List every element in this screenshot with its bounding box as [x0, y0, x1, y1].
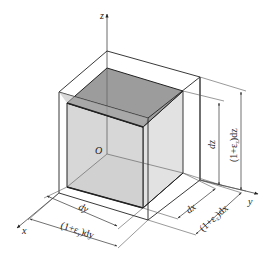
- svg-text:(1+εx)dx: (1+εx)dx: [197, 202, 231, 234]
- dimension-dx-deformed: (1+εx)dx: [196, 193, 241, 234]
- y-axis-label: y: [247, 196, 253, 207]
- dimension-dz-deformed: (1+εz)dz: [228, 92, 241, 190]
- z-axis-label: z: [99, 10, 104, 21]
- dy-label: dy: [77, 201, 91, 215]
- dx-label: dx: [183, 201, 198, 216]
- dz-label: dz: [206, 140, 217, 149]
- dimension-dy-deformed: (1+εy)dy: [30, 219, 117, 246]
- dz-deformed-prefix: (1+ε: [228, 144, 240, 162]
- svg-text:(1+εz)dz: (1+εz)dz: [228, 128, 240, 162]
- strain-element-diagram: z O x: [0, 0, 270, 257]
- dz-deformed-tail: )dz: [228, 128, 240, 141]
- x-axis: x: [17, 193, 59, 236]
- inner-cube: [67, 68, 183, 208]
- x-axis-label: x: [21, 225, 27, 236]
- origin-label: O: [95, 145, 102, 156]
- dimension-dz: dz: [206, 103, 219, 185]
- svg-text:(1+εy)dy: (1+εy)dy: [59, 219, 96, 241]
- dy-deformed-tail: )dy: [79, 226, 95, 242]
- dimension-dy: dy: [47, 196, 117, 226]
